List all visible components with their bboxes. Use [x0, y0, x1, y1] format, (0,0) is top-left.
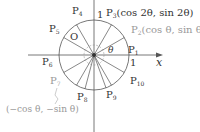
origin-label: O: [70, 31, 78, 42]
label-p4: P4: [72, 5, 83, 17]
label-p8: P8: [77, 91, 88, 103]
label-p9: P9: [106, 89, 117, 101]
label-p1: P1: [128, 44, 139, 56]
p7-leader-line: [55, 88, 58, 104]
x-axis-label: x: [156, 56, 163, 69]
label-p6: P6: [42, 56, 53, 68]
origin-dot: [92, 53, 96, 57]
label-p7: P7: [50, 75, 61, 87]
p7-annotation: (−cos θ, −sin θ): [6, 104, 79, 114]
unit-label-x: 1: [130, 57, 136, 68]
label-p2: P2(cos θ, sin θ): [131, 24, 200, 36]
point-labels: P1 P2(cos θ, sin θ) P3(cos 2θ, sin 2θ) P…: [42, 5, 200, 103]
angle-label: θ: [108, 45, 114, 55]
label-p10: P10: [130, 75, 145, 87]
label-p5: P5: [49, 23, 60, 35]
unit-label-y: 1: [97, 9, 103, 20]
unit-circle-diagram: 1 1 x O θ P1 P2(cos θ, sin θ) P3(cos 2θ,…: [0, 0, 200, 132]
label-p3: P3(cos 2θ, sin 2θ): [106, 7, 193, 19]
